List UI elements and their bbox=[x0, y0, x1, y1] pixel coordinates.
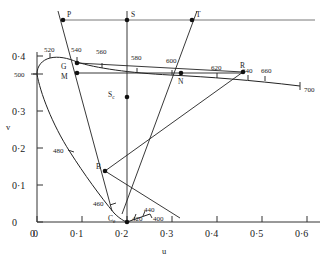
wavelength-label-520: 520 bbox=[44, 46, 55, 54]
origin-label: 0 bbox=[30, 228, 35, 239]
point-G bbox=[75, 61, 80, 66]
point-P bbox=[61, 18, 66, 23]
wavelength-label-660: 660 bbox=[261, 67, 272, 75]
point-label-Sc: Sc bbox=[108, 90, 115, 100]
y-tick-label-1: 0·1 bbox=[12, 180, 25, 191]
point-label-N: N bbox=[178, 77, 184, 86]
point-S bbox=[125, 18, 130, 23]
x-tick-label-1: 0·1 bbox=[70, 228, 83, 239]
x-tick-label-6: 0·6 bbox=[295, 228, 308, 239]
point-T bbox=[190, 18, 195, 23]
point-label-M: M bbox=[61, 72, 68, 81]
line-B-to-locus bbox=[105, 171, 180, 218]
x-axis-ticks bbox=[37, 216, 307, 222]
x-tick-label-5: 0·5 bbox=[250, 228, 263, 239]
line-B-R bbox=[105, 72, 243, 171]
wavelength-label-700: 700 bbox=[304, 86, 315, 94]
point-R bbox=[241, 70, 246, 75]
x-tick-labels: 0 0·1 0·2 0·3 0·4 0·5 0·6 bbox=[33, 228, 308, 239]
wavelength-label-420: 420 bbox=[132, 215, 143, 223]
point-label-S: S bbox=[131, 10, 135, 19]
y-tick-label-0: 0 bbox=[12, 217, 17, 228]
point-label-Sc-subscript: c bbox=[112, 94, 115, 100]
point-Sc bbox=[125, 95, 130, 100]
wavelength-label-540: 540 bbox=[71, 46, 82, 54]
x-axis-title: u bbox=[162, 246, 167, 256]
y-tick-label-4: 0·4 bbox=[12, 51, 25, 62]
point-label-Ce: Ce bbox=[108, 214, 116, 224]
diagram-canvas: 0 0·1 0·2 0·3 0·4 0·5 0·6 0 0·1 0·2 0·3 … bbox=[0, 0, 331, 264]
ray-through-T-N bbox=[122, 11, 197, 214]
wavelength-label-580: 580 bbox=[131, 54, 142, 62]
point-labels: P S T G M N R B Sc Ce bbox=[61, 10, 245, 224]
wavelength-label-460: 460 bbox=[93, 200, 104, 208]
wavelength-label-440: 440 bbox=[144, 206, 155, 214]
data-points bbox=[61, 18, 246, 225]
x-tick-label-2: 0·2 bbox=[115, 228, 128, 239]
point-B bbox=[103, 169, 108, 174]
converging-rays bbox=[58, 11, 197, 222]
chromaticity-diagram-figure: 0 0·1 0·2 0·3 0·4 0·5 0·6 0 0·1 0·2 0·3 … bbox=[0, 0, 331, 264]
point-label-R: R bbox=[240, 61, 245, 70]
x-tick-label-4: 0·4 bbox=[205, 228, 218, 239]
x-tick-label-3: 0·3 bbox=[160, 228, 173, 239]
point-N bbox=[179, 71, 184, 76]
wavelength-label-600: 600 bbox=[166, 57, 177, 65]
point-label-G: G bbox=[61, 62, 67, 71]
point-M bbox=[75, 71, 80, 76]
y-tick-label-3: 0·3 bbox=[12, 106, 25, 117]
point-label-Ce-subscript: e bbox=[113, 218, 116, 224]
y-axis-title: v bbox=[6, 122, 11, 132]
point-label-T: T bbox=[196, 10, 201, 19]
point-label-P: P bbox=[67, 10, 71, 19]
y-tick-label-2: 0·2 bbox=[12, 143, 25, 154]
point-Ce bbox=[125, 220, 130, 225]
construction-lines bbox=[77, 63, 243, 218]
point-label-B: B bbox=[96, 162, 101, 171]
ray-through-P-G bbox=[58, 11, 112, 211]
wavelength-label-480: 480 bbox=[53, 147, 64, 155]
wavelength-label-560: 560 bbox=[96, 48, 107, 56]
wavelength-label-500: 500 bbox=[14, 71, 25, 79]
wavelength-label-400: 400 bbox=[153, 215, 164, 223]
